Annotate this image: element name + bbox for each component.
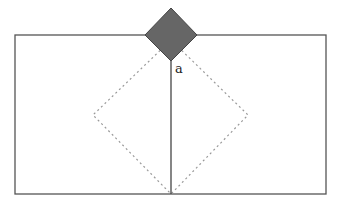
solid-rotated-square bbox=[145, 8, 197, 61]
diagram-canvas: a bbox=[0, 0, 345, 205]
label-a: a bbox=[175, 61, 183, 76]
